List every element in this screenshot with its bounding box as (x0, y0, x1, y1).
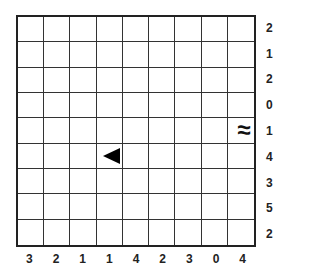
grid-cell-r0-c6[interactable] (175, 17, 201, 42)
grid-cell-r2-c4[interactable] (123, 68, 149, 93)
grid-cell-r3-c0[interactable] (18, 93, 44, 118)
grid-cell-r4-c6[interactable] (175, 118, 201, 143)
grid-cell-r6-c8[interactable] (228, 169, 254, 194)
grid-cell-r4-c5[interactable] (149, 118, 175, 143)
grid-cell-r1-c5[interactable] (149, 42, 175, 67)
column-clue-4: 4 (123, 250, 150, 268)
grid-cell-r6-c0[interactable] (18, 169, 44, 194)
grid-cell-r6-c7[interactable] (202, 169, 228, 194)
grid-cell-r0-c4[interactable] (123, 17, 149, 42)
grid-cell-r5-c3[interactable] (97, 144, 123, 169)
grid-cell-r5-c5[interactable] (149, 144, 175, 169)
column-clue-0: 3 (16, 250, 43, 268)
grid-cell-r2-c5[interactable] (149, 68, 175, 93)
row-clue-0: 2 (262, 15, 282, 41)
row-clue-4: 1 (262, 118, 282, 144)
grid-cell-r2-c1[interactable] (44, 68, 70, 93)
grid-cell-r7-c8[interactable] (228, 194, 254, 219)
grid-cell-r5-c6[interactable] (175, 144, 201, 169)
grid-cell-r1-c1[interactable] (44, 42, 70, 67)
grid-cell-r3-c7[interactable] (202, 93, 228, 118)
grid-cell-r8-c6[interactable] (175, 220, 201, 245)
grid-cell-r6-c5[interactable] (149, 169, 175, 194)
grid-cell-r2-c7[interactable] (202, 68, 228, 93)
grid-cell-r1-c3[interactable] (97, 42, 123, 67)
waves-icon: ≈ (237, 118, 250, 142)
grid-cell-r2-c6[interactable] (175, 68, 201, 93)
grid-cell-r2-c3[interactable] (97, 68, 123, 93)
grid-cell-r0-c5[interactable] (149, 17, 175, 42)
grid-cell-r1-c0[interactable] (18, 42, 44, 67)
grid-cell-r4-c3[interactable] (97, 118, 123, 143)
grid-cell-r8-c1[interactable] (44, 220, 70, 245)
row-clue-5: 4 (262, 144, 282, 170)
grid-cell-r0-c1[interactable] (44, 17, 70, 42)
row-clue-7: 5 (262, 195, 282, 221)
grid-cell-r1-c8[interactable] (228, 42, 254, 67)
grid-cell-r4-c2[interactable] (70, 118, 96, 143)
grid-cell-r8-c3[interactable] (97, 220, 123, 245)
grid-cell-r5-c8[interactable] (228, 144, 254, 169)
grid-cell-r4-c4[interactable] (123, 118, 149, 143)
grid-cell-r1-c4[interactable] (123, 42, 149, 67)
grid-cell-r5-c7[interactable] (202, 144, 228, 169)
row-clues: 212014352 (262, 15, 282, 247)
column-clue-8: 4 (229, 250, 256, 268)
row-clue-3: 0 (262, 92, 282, 118)
grid-cell-r2-c0[interactable] (18, 68, 44, 93)
grid-cell-r0-c8[interactable] (228, 17, 254, 42)
grid-cell-r7-c3[interactable] (97, 194, 123, 219)
grid-cell-r7-c6[interactable] (175, 194, 201, 219)
grid-cell-r8-c8[interactable] (228, 220, 254, 245)
grid-cell-r4-c8[interactable]: ≈ (228, 118, 254, 143)
grid-cell-r3-c8[interactable] (228, 93, 254, 118)
grid-cell-r1-c7[interactable] (202, 42, 228, 67)
grid-cell-r5-c2[interactable] (70, 144, 96, 169)
grid-cell-r5-c4[interactable] (123, 144, 149, 169)
grid-cell-r0-c2[interactable] (70, 17, 96, 42)
grid-cell-r1-c2[interactable] (70, 42, 96, 67)
grid-cell-r7-c5[interactable] (149, 194, 175, 219)
grid-cell-r5-c1[interactable] (44, 144, 70, 169)
grid-cell-r8-c0[interactable] (18, 220, 44, 245)
grid-cell-r6-c4[interactable] (123, 169, 149, 194)
column-clue-5: 2 (149, 250, 176, 268)
grid-cell-r0-c7[interactable] (202, 17, 228, 42)
row-clue-8: 2 (262, 221, 282, 247)
grid-cell-r2-c2[interactable] (70, 68, 96, 93)
grid-cell-r7-c0[interactable] (18, 194, 44, 219)
column-clue-3: 1 (96, 250, 123, 268)
grid-cell-r0-c0[interactable] (18, 17, 44, 42)
grid-cell-r7-c7[interactable] (202, 194, 228, 219)
grid-cell-r1-c6[interactable] (175, 42, 201, 67)
row-clue-6: 3 (262, 170, 282, 196)
grid-cell-r5-c0[interactable] (18, 144, 44, 169)
grid-cell-r2-c8[interactable] (228, 68, 254, 93)
grid-cell-r3-c5[interactable] (149, 93, 175, 118)
grid-cell-r7-c2[interactable] (70, 194, 96, 219)
column-clue-2: 1 (69, 250, 96, 268)
grid-cell-r7-c4[interactable] (123, 194, 149, 219)
column-clue-1: 2 (43, 250, 70, 268)
grid-cell-r3-c3[interactable] (97, 93, 123, 118)
grid-cell-r6-c2[interactable] (70, 169, 96, 194)
grid-cell-r3-c2[interactable] (70, 93, 96, 118)
grid-cell-r4-c7[interactable] (202, 118, 228, 143)
grid-cell-r8-c4[interactable] (123, 220, 149, 245)
grid-cell-r3-c1[interactable] (44, 93, 70, 118)
grid-cell-r0-c3[interactable] (97, 17, 123, 42)
grid-cell-r8-c7[interactable] (202, 220, 228, 245)
grid-cell-r7-c1[interactable] (44, 194, 70, 219)
grid-cell-r4-c1[interactable] (44, 118, 70, 143)
grid-cell-r3-c4[interactable] (123, 93, 149, 118)
grid-cell-r6-c3[interactable] (97, 169, 123, 194)
grid-cell-r4-c0[interactable] (18, 118, 44, 143)
grid-cell-r8-c2[interactable] (70, 220, 96, 245)
grid-cell-r8-c5[interactable] (149, 220, 175, 245)
column-clues: 321142304 (16, 250, 256, 268)
grid-cell-r6-c1[interactable] (44, 169, 70, 194)
grid-cell-r6-c6[interactable] (175, 169, 201, 194)
grid-cell-r3-c6[interactable] (175, 93, 201, 118)
row-clue-2: 2 (262, 67, 282, 93)
puzzle-grid: ≈ (16, 15, 256, 247)
